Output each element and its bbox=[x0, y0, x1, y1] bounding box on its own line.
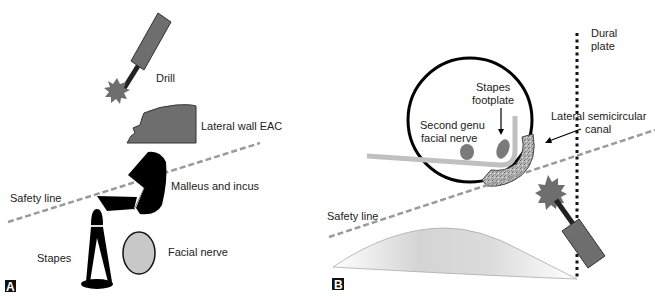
panel-b: Dural plate Second genu facial nerve Sta… bbox=[327, 27, 655, 292]
figure-canvas: Drill Lateral wall EAC Safety line Malle… bbox=[0, 0, 655, 296]
label-stapes-footplate-2: footplate bbox=[472, 94, 514, 106]
arrowhead-icon bbox=[545, 137, 552, 143]
label-dural-plate-2: plate bbox=[591, 40, 615, 52]
panel-a: Drill Lateral wall EAC Safety line Malle… bbox=[5, 13, 282, 294]
panel-tag-b: B bbox=[334, 278, 343, 292]
label-stapes: Stapes bbox=[37, 252, 72, 264]
panel-tag-a: A bbox=[6, 280, 15, 294]
label-drill: Drill bbox=[156, 72, 175, 84]
label-second-genu-2: facial nerve bbox=[421, 132, 477, 144]
second-genu-facial-nerve-shape bbox=[460, 144, 474, 160]
lateral-wall-eac-shape bbox=[127, 105, 196, 143]
facial-nerve-shape bbox=[123, 232, 155, 274]
mound-shape bbox=[333, 228, 577, 279]
label-lateral-scc-2: canal bbox=[585, 123, 611, 135]
drill-icon bbox=[535, 175, 605, 268]
label-second-genu-1: Second genu bbox=[420, 119, 485, 131]
label-stapes-footplate-1: Stapes bbox=[476, 81, 511, 93]
label-malleus-incus: Malleus and incus bbox=[171, 180, 260, 192]
stapes-shape bbox=[81, 209, 113, 289]
stapes-footplate-shape bbox=[494, 138, 512, 161]
label-safety-line-a: Safety line bbox=[10, 192, 61, 204]
label-dural-plate-1: Dural bbox=[591, 27, 617, 39]
label-lateral-wall-eac: Lateral wall EAC bbox=[201, 120, 282, 132]
arrowhead-icon bbox=[498, 129, 504, 135]
label-facial-nerve: Facial nerve bbox=[168, 246, 228, 258]
drill-icon bbox=[104, 13, 171, 104]
label-lateral-scc-1: Lateral semicircular bbox=[551, 110, 647, 122]
label-safety-line-b: Safety line bbox=[327, 210, 378, 222]
